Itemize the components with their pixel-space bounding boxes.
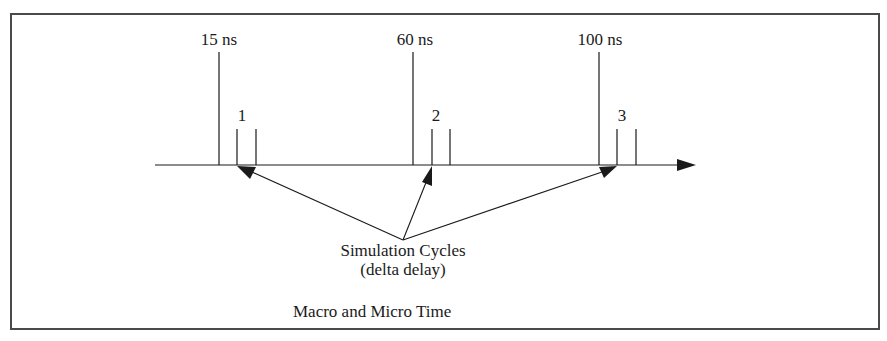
- delta-cycle-ticks: [237, 129, 636, 165]
- timeline-diagram: [0, 0, 887, 341]
- arrowhead-icon: [237, 166, 256, 179]
- time-label-60ns: 60 ns: [397, 31, 433, 48]
- figure-title: Macro and Micro Time: [293, 303, 451, 320]
- axis-arrowhead-icon: [677, 159, 696, 171]
- cycle-label-3: 3: [618, 107, 627, 124]
- cycle-label-2: 2: [432, 107, 441, 124]
- time-label-100ns: 100 ns: [578, 31, 623, 48]
- simulation-cycle-arrows: [237, 166, 617, 240]
- macro-time-ticks: [219, 52, 599, 165]
- arrowhead-icon: [422, 166, 432, 186]
- caption-line-2: (delta delay): [340, 260, 465, 279]
- caption-line-1: Simulation Cycles: [340, 241, 465, 260]
- time-axis: [155, 159, 696, 171]
- cycle-label-1: 1: [238, 107, 247, 124]
- simulation-cycles-caption: Simulation Cycles (delta delay): [340, 241, 465, 279]
- arrowhead-icon: [599, 166, 617, 178]
- time-label-15ns: 15 ns: [201, 31, 237, 48]
